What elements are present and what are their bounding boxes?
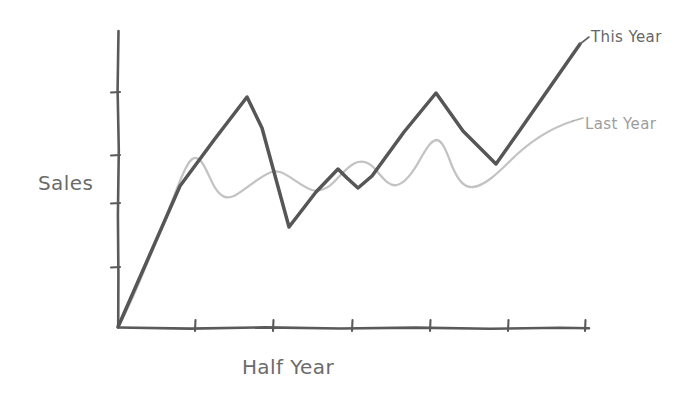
- y-axis-tick-4: [111, 92, 120, 93]
- x-axis-tick-5: [508, 320, 509, 331]
- x-axis-tick-3: [352, 320, 353, 331]
- x-axis-tick-6: [585, 320, 586, 331]
- chart-background: [0, 0, 689, 408]
- y-axis: [118, 31, 119, 327]
- x-axis-tick-1: [195, 320, 196, 331]
- series-label-this-year: This Year: [590, 28, 662, 46]
- x-axis-tick-2: [273, 320, 274, 331]
- y-axis-tick-3: [111, 155, 120, 156]
- x-axis-label: Half Year: [242, 355, 335, 379]
- y-axis-tick-2: [111, 203, 120, 204]
- x-axis-tick-4: [430, 320, 431, 331]
- y-axis-tick-1: [111, 267, 120, 268]
- x-axis: [118, 327, 589, 328]
- series-label-last-year: Last Year: [585, 115, 657, 133]
- chart-canvas: This Year Last Year Sales Half Year: [0, 0, 689, 408]
- y-axis-label: Sales: [38, 171, 93, 195]
- sketch-line-chart: This Year Last Year Sales Half Year: [0, 0, 689, 408]
